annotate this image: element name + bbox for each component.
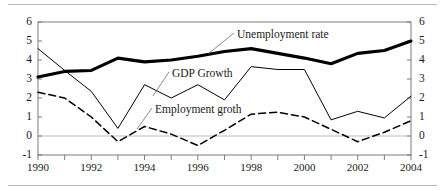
y-tick-label-left: -1 <box>12 149 32 161</box>
y-tick-label-right: 5 <box>419 35 439 47</box>
y-tick-label-right: 4 <box>419 54 439 66</box>
x-tick-label: 1990 <box>18 162 58 173</box>
x-tick-label: 2004 <box>391 162 431 173</box>
chart-figure: 6543210-1 6543210-1 19901992199419961998… <box>0 0 445 191</box>
x-tick-label: 1996 <box>178 162 218 173</box>
y-tick-label-left: 3 <box>12 73 32 85</box>
plot-frame <box>38 22 411 155</box>
y-tick-label-left: 5 <box>12 35 32 47</box>
y-tick-label-right: 6 <box>419 16 439 28</box>
line-chart-plot <box>0 0 445 191</box>
y-tick-label-right: 2 <box>419 92 439 104</box>
x-tick-label: 1994 <box>125 162 165 173</box>
series-label-2: Employment groth <box>155 103 242 115</box>
x-tick-label: 2002 <box>338 162 378 173</box>
y-tick-label-left: 4 <box>12 54 32 66</box>
x-tick-label: 1992 <box>71 162 111 173</box>
x-tick-label: 2000 <box>284 162 324 173</box>
y-tick-label-left: 6 <box>12 16 32 28</box>
series-label-1: GDP Growth <box>172 67 233 79</box>
y-tick-label-right: 1 <box>419 111 439 123</box>
y-tick-label-right: 0 <box>419 130 439 142</box>
y-tick-label-right: 3 <box>419 73 439 85</box>
y-tick-label-right: -1 <box>419 149 439 161</box>
y-tick-label-left: 2 <box>12 92 32 104</box>
y-tick-label-left: 1 <box>12 111 32 123</box>
series-label-0: Unemployment rate <box>237 28 329 40</box>
y-tick-label-left: 0 <box>12 130 32 142</box>
x-tick-label: 1998 <box>231 162 271 173</box>
